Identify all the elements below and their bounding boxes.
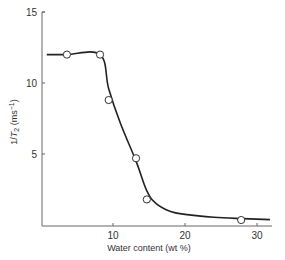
x-tick-label: 20: [179, 230, 191, 241]
data-point-marker: [96, 51, 103, 58]
y-title-sup: −1: [8, 102, 15, 110]
data-point-marker: [238, 216, 245, 223]
y-tick-label: 15: [26, 7, 38, 18]
data-markers: [63, 51, 244, 224]
fitted-curve: [47, 52, 270, 220]
chart-plot: 51015 102030 Water content (wt %) 1/T2 (…: [0, 0, 285, 260]
axes: [42, 12, 272, 226]
chart-figure: 51015 102030 Water content (wt %) 1/T2 (…: [0, 0, 285, 260]
y-tick-label: 10: [26, 78, 38, 89]
x-tick-label: 30: [251, 230, 263, 241]
x-tick-label: 10: [107, 230, 119, 241]
data-point-marker: [63, 51, 70, 58]
data-point-marker: [143, 196, 150, 203]
y-title-unit: (ms: [9, 110, 19, 128]
y-tick-label: 5: [31, 149, 37, 160]
y-title-close: ): [9, 99, 19, 102]
x-axis-title: Water content (wt %): [107, 243, 191, 253]
data-point-marker: [105, 96, 112, 103]
data-point-marker: [132, 155, 139, 162]
y-axis-title: 1/T2 (ms−1): [8, 99, 20, 144]
